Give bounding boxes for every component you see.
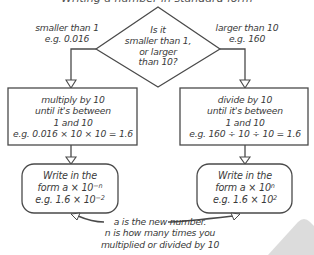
left-branch-label: smaller than 1 e.g. 0.016 (24, 22, 110, 45)
decision-question: Is it smaller than 1, or larger than 10? (108, 25, 208, 68)
right-branch-label: larger than 10 e.g. 160 (202, 22, 292, 45)
left-connector (71, 49, 96, 82)
note-text: a is the new number. n is how many times… (80, 216, 240, 250)
right-process-text: divide by 10 until it's between 1 and 10… (182, 94, 308, 140)
right-result-text: Write in the form a × 10n e.g. 1.6 × 102 (199, 170, 291, 206)
flowchart: Writing a number in standard form smalle… (0, 0, 314, 255)
right-arrowhead-2 (240, 157, 250, 164)
corner-shape (268, 219, 314, 255)
left-arrowhead-1 (66, 80, 76, 88)
left-arrowhead-2 (66, 157, 76, 164)
right-arrowhead-1 (240, 80, 250, 88)
left-result-text: Write in the form a × 10−n e.g. 1.6 × 10… (24, 170, 116, 206)
right-connector (220, 49, 245, 82)
left-process-text: multiply by 10 until it's between 1 and … (10, 94, 136, 140)
